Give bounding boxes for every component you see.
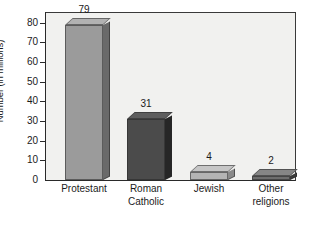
bar-top-face bbox=[190, 165, 236, 172]
x-axis-category-labels: ProtestantRomanCatholicJewishOtherreligi… bbox=[46, 183, 295, 223]
bar-front-face bbox=[252, 176, 290, 180]
y-axis-tick-label: 40 bbox=[14, 96, 38, 106]
x-axis-label-line: Protestant bbox=[53, 183, 115, 196]
x-axis-label-line: religions bbox=[240, 196, 302, 209]
bar-top-face bbox=[65, 18, 111, 25]
bar-roman-catholic bbox=[127, 111, 165, 180]
bar-front-face bbox=[65, 25, 103, 180]
x-axis-label-line: Jewish bbox=[178, 183, 240, 196]
y-axis-tick-label: 60 bbox=[14, 57, 38, 67]
bars-layer: 793142 bbox=[46, 13, 295, 180]
bar-chart-figure: Number (in millions) 80706050403020100 7… bbox=[0, 0, 313, 226]
x-axis-label-protestant: Protestant bbox=[53, 183, 115, 196]
bar-top-face bbox=[252, 169, 298, 176]
bar-jewish bbox=[190, 164, 228, 180]
y-axis-tick-label: 80 bbox=[14, 18, 38, 28]
bar-front-face bbox=[190, 172, 228, 180]
bar-side-face bbox=[165, 116, 172, 180]
x-axis-label-other-religions: Otherreligions bbox=[240, 183, 302, 208]
x-axis-label-line: Other bbox=[240, 183, 302, 196]
x-axis-label-roman-catholic: RomanCatholic bbox=[115, 183, 177, 208]
x-axis-label-jewish: Jewish bbox=[178, 183, 240, 196]
x-axis-label-line: Catholic bbox=[115, 196, 177, 209]
bar-value-label: 79 bbox=[61, 4, 107, 15]
bar-protestant bbox=[65, 17, 103, 180]
bar-top-face bbox=[127, 112, 173, 119]
bar-side-face bbox=[103, 21, 110, 180]
y-axis-tick-label: 30 bbox=[14, 116, 38, 126]
y-axis-title: Number (in millions) bbox=[0, 0, 7, 165]
y-axis-tick-label: 50 bbox=[14, 77, 38, 87]
bar-front-face bbox=[127, 119, 165, 180]
bar-value-label: 31 bbox=[123, 98, 169, 109]
bar-value-label: 2 bbox=[248, 155, 294, 166]
y-axis-tick-label: 0 bbox=[14, 175, 38, 185]
y-axis-tick-label: 10 bbox=[14, 155, 38, 165]
y-axis-tick-label: 70 bbox=[14, 37, 38, 47]
y-axis-tick-label: 20 bbox=[14, 136, 38, 146]
bar-other-religions bbox=[252, 168, 290, 180]
y-axis-tick-labels: 80706050403020100 bbox=[14, 12, 38, 180]
bar-value-label: 4 bbox=[186, 151, 232, 162]
x-axis-label-line: Roman bbox=[115, 183, 177, 196]
